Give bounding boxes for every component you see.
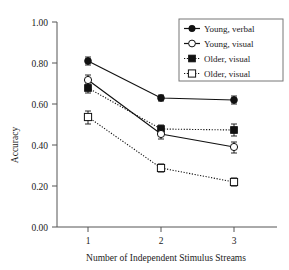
data-point-young-visual-3: [230, 143, 237, 150]
chart-legend: Young, verbal Young, visual Older, visua…: [179, 19, 283, 81]
x-tick-label-1: 1: [86, 236, 91, 246]
y-tick-label-4: 0.40: [31, 141, 48, 151]
data-point-older-visual-open-3: [230, 178, 237, 185]
y-axis-title: Accuracy: [10, 127, 20, 164]
y-tick-label-6: 0.00: [31, 223, 48, 233]
y-tick-label-1: 1.00: [31, 18, 48, 28]
legend-open-circle-icon: [189, 40, 196, 47]
series-young-visual-errorbars: [85, 75, 237, 153]
x-tick-label-3: 3: [232, 236, 237, 246]
legend-open-square-icon: [188, 70, 195, 77]
data-point-young-verbal-2: [158, 95, 165, 102]
x-tick-label-2: 2: [159, 236, 164, 246]
data-point-young-visual-1: [84, 76, 91, 83]
chart-page: 1.00 0.80 0.60 0.40 0.20 0.00 Accuracy 1…: [0, 0, 289, 270]
series-older-visual-filled: [85, 83, 238, 136]
y-tick-label-2: 0.80: [31, 59, 48, 69]
series-young-visual: [84, 75, 237, 153]
legend-label-3: Older, visual: [204, 54, 251, 64]
legend-label-4: Older, visual: [204, 69, 251, 79]
data-point-young-visual-2: [157, 130, 164, 137]
legend-label-2: Young, visual: [204, 39, 254, 49]
x-axis-ticks: [88, 227, 234, 232]
data-point-older-visual-filled-1: [85, 85, 92, 92]
series-older-visual-open-errorbars: [85, 111, 237, 186]
legend-label-1: Young, verbal: [204, 24, 255, 34]
data-point-older-visual-open-1: [84, 113, 91, 120]
legend-filled-circle-icon: [189, 25, 195, 31]
legend-filled-square-icon: [189, 55, 196, 62]
data-point-older-visual-filled-3: [231, 127, 238, 134]
y-tick-label-5: 0.20: [31, 182, 48, 192]
data-point-young-verbal-3: [231, 97, 238, 104]
x-axis-title: Number of Independent Stimulus Streams: [86, 253, 246, 263]
y-tick-label-3: 0.60: [31, 100, 48, 110]
legend-item-older-visual-open[interactable]: Older, visual: [184, 69, 251, 79]
y-axis-ticks: [52, 22, 57, 227]
data-point-young-verbal-1: [85, 58, 92, 65]
accuracy-line-chart: 1.00 0.80 0.60 0.40 0.20 0.00 Accuracy 1…: [0, 0, 289, 270]
series-older-visual-open: [84, 111, 237, 186]
data-point-older-visual-open-2: [157, 164, 164, 171]
